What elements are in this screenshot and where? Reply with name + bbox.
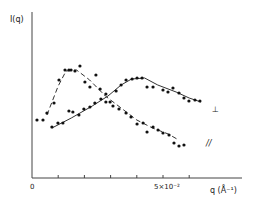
data-point xyxy=(104,100,107,103)
chart-figure: I(q) 0 5×10⁻² q (Å⁻¹) ⊥ // xyxy=(0,0,253,205)
data-point xyxy=(193,98,196,101)
data-point xyxy=(45,111,48,114)
data-point xyxy=(161,88,164,91)
data-point xyxy=(117,107,120,110)
x-axis-label: q (Å⁻¹) xyxy=(210,184,237,195)
data-point xyxy=(41,118,44,121)
axes xyxy=(32,12,242,178)
data-point xyxy=(78,64,81,67)
data-point xyxy=(124,78,127,81)
data-point xyxy=(119,83,122,86)
series-perpendicular xyxy=(50,76,201,128)
data-point xyxy=(182,143,185,146)
data-point xyxy=(167,133,170,136)
data-point xyxy=(63,68,66,71)
data-point xyxy=(166,90,169,93)
series-parallel xyxy=(35,64,185,147)
data-point xyxy=(35,118,38,121)
data-point xyxy=(69,68,72,71)
data-point xyxy=(77,113,80,116)
data-point xyxy=(172,141,175,144)
data-point xyxy=(94,73,97,76)
data-point xyxy=(83,80,86,83)
data-point xyxy=(182,96,185,99)
y-axis-label: I(q) xyxy=(10,15,24,24)
legend-parallel: // xyxy=(205,139,213,148)
data-point xyxy=(73,69,76,72)
data-point xyxy=(130,77,133,80)
data-point xyxy=(57,78,60,81)
data-point xyxy=(156,128,159,131)
data-point xyxy=(151,125,154,128)
x-tick-label-five: 5×10⁻² xyxy=(154,183,180,191)
data-point xyxy=(50,125,53,128)
data-point xyxy=(71,110,74,113)
data-point xyxy=(151,85,154,88)
data-point xyxy=(111,104,114,107)
data-point xyxy=(67,109,70,112)
data-point xyxy=(171,86,174,89)
data-point xyxy=(129,115,132,118)
plot-area xyxy=(35,64,201,147)
data-point xyxy=(93,101,96,104)
data-point xyxy=(61,121,64,124)
data-point xyxy=(141,121,144,124)
data-point xyxy=(161,131,164,134)
data-point xyxy=(140,76,143,79)
data-point xyxy=(145,85,148,88)
data-point xyxy=(187,99,190,102)
data-point xyxy=(198,99,201,102)
data-point xyxy=(88,105,91,108)
legend-perpendicular: ⊥ xyxy=(212,105,219,114)
data-point xyxy=(145,130,148,133)
data-point xyxy=(124,111,127,114)
fit-line xyxy=(52,78,201,128)
data-point xyxy=(177,144,180,147)
data-point xyxy=(115,89,118,92)
x-tick-label-zero: 0 xyxy=(30,183,34,191)
data-point xyxy=(177,91,180,94)
data-point xyxy=(56,121,59,124)
data-point xyxy=(99,97,102,100)
data-point xyxy=(135,76,138,79)
data-point xyxy=(52,101,55,104)
data-point xyxy=(82,107,85,110)
data-point xyxy=(99,87,102,90)
data-point xyxy=(88,85,91,88)
data-point xyxy=(135,122,138,125)
